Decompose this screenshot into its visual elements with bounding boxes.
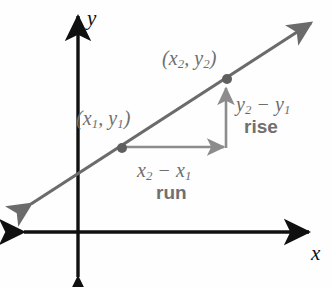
run-lead-var: x — [137, 159, 146, 181]
run-trail-var: x — [176, 159, 185, 181]
point-1-close-paren: ) — [124, 107, 131, 129]
point-1-dot — [117, 143, 127, 153]
point-2-x-var: x — [169, 47, 178, 69]
run-minus-operator: − — [152, 159, 176, 181]
y-axis-label: y — [87, 8, 96, 29]
point-1-x-var: x — [83, 107, 92, 129]
slope-diagram: (x1, y1) (x2, y2) y2 − y1 rise x2 − x1 r… — [0, 0, 333, 287]
rise-trail-subscript: 1 — [284, 103, 290, 117]
run-expression: x2 − x1 — [137, 160, 191, 183]
x-axis-label: x — [311, 243, 320, 264]
run-trail-subscript: 1 — [185, 169, 191, 183]
rise-lead-var: y — [236, 93, 245, 115]
rise-word-label: rise — [244, 117, 278, 136]
point-1-y-var: y — [108, 107, 117, 129]
rise-minus-operator: − — [251, 93, 275, 115]
rise-trail-var: y — [275, 93, 284, 115]
point-1-open-paren: ( — [76, 107, 83, 129]
point-2-separator: , — [184, 47, 194, 69]
point-2-label: (x2, y2) — [162, 48, 216, 71]
point-1-label: (x1, y1) — [76, 108, 130, 131]
run-word-label: run — [156, 183, 187, 202]
point-2-y-var: y — [194, 47, 203, 69]
point-1-separator: , — [98, 107, 108, 129]
diagram-canvas — [0, 0, 333, 287]
point-2-open-paren: ( — [162, 47, 169, 69]
rise-expression: y2 − y1 — [236, 94, 290, 117]
point-2-close-paren: ) — [210, 47, 217, 69]
point-2-dot — [222, 74, 232, 84]
